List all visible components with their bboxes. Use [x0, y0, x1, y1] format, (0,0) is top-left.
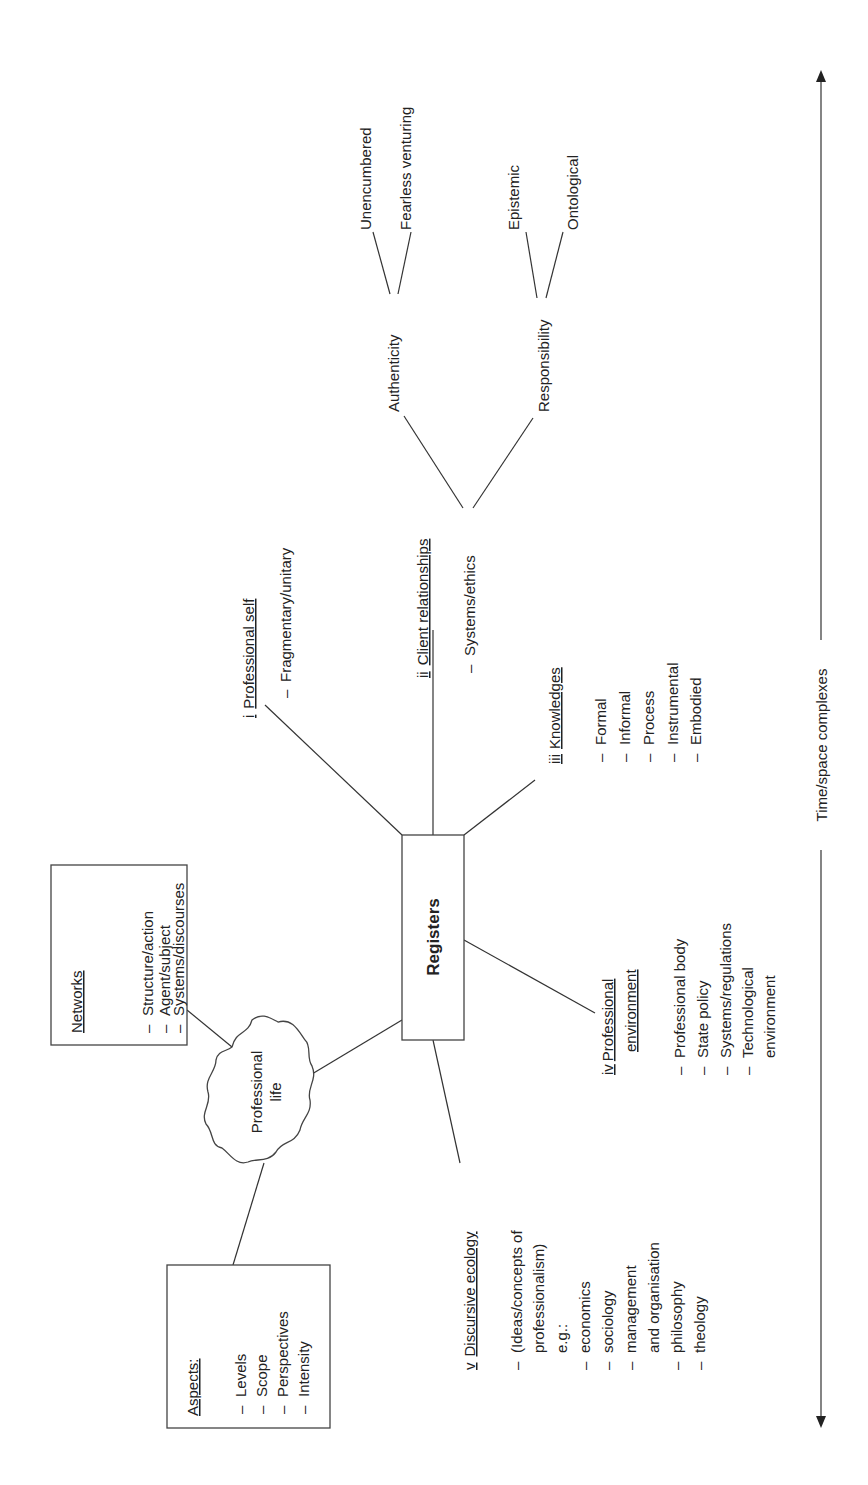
register-discursive-ecology: vDiscursive ecology – (Ideas/concepts of…: [461, 1230, 708, 1370]
svg-text:–: –: [576, 1361, 593, 1370]
register-professional-environment: ivProfessional environment – Professiona…: [599, 923, 778, 1075]
register-item: State policy: [694, 980, 711, 1058]
svg-text:–: –: [139, 1024, 156, 1033]
register-item: (Ideas/concepts of: [508, 1230, 525, 1353]
register-item: Systems/regulations: [717, 923, 734, 1058]
svg-text:–: –: [295, 1405, 312, 1414]
register-item: Professional body: [671, 938, 688, 1058]
time-space-axis: Time/space complexes: [813, 70, 830, 1428]
networks-box: Networks – Structure/action – Agent/subj…: [51, 865, 187, 1045]
svg-text:–: –: [671, 1066, 688, 1075]
register-item: Formal: [592, 698, 609, 745]
aspects-box: Aspects: – Levels – Scope – Perspectives…: [167, 1265, 330, 1428]
register-item: and organisation: [645, 1242, 662, 1353]
register-item: philosophy: [668, 1281, 685, 1353]
leaf-unencumbered: Unencumbered: [357, 127, 374, 230]
register-client-relationships: iiClient relationships – Systems/ethics …: [357, 107, 581, 678]
svg-text:–: –: [694, 1066, 711, 1075]
svg-text:–: –: [622, 1361, 639, 1370]
aspects-item: Intensity: [295, 1341, 312, 1397]
register-item: economics: [576, 1281, 593, 1353]
register-item: Process: [640, 691, 657, 745]
register-title: iiiKnowledges: [546, 667, 563, 764]
arrow-up-icon: [816, 70, 826, 82]
aspects-item: Scope: [253, 1354, 270, 1397]
register-item: Technological: [739, 967, 756, 1058]
axis-label: Time/space complexes: [813, 669, 830, 822]
svg-text:–: –: [616, 753, 633, 762]
branch-responsibility: Responsibility: [535, 319, 552, 412]
svg-text:–: –: [274, 1405, 291, 1414]
register-title: vDiscursive ecology: [461, 1231, 478, 1370]
register-item: Embodied: [687, 677, 704, 745]
svg-text:–: –: [232, 1405, 249, 1414]
svg-text:–: –: [170, 1024, 187, 1033]
networks-item: Systems/discourses: [170, 883, 187, 1016]
svg-text:–: –: [277, 689, 294, 698]
leaf-ontological: Ontological: [564, 155, 581, 230]
svg-text:–: –: [640, 753, 657, 762]
concept-diagram: Time/space complexes Registers: [0, 0, 868, 1485]
register-item: Instrumental: [664, 662, 681, 745]
networks-item: Structure/action: [139, 911, 156, 1016]
leaf-epistemic: Epistemic: [505, 164, 522, 230]
register-title: iProfessional self: [240, 598, 257, 718]
cloud-label-line2: life: [267, 1082, 284, 1101]
register-item: Systems/ethics: [461, 555, 478, 656]
leaf-fearless-venturing: Fearless venturing: [397, 107, 414, 230]
register-item: Informal: [616, 691, 633, 745]
svg-text:–: –: [664, 753, 681, 762]
networks-title: Networks: [68, 970, 85, 1033]
register-item: Fragmentary/unitary: [277, 547, 294, 682]
registers-node: Registers: [402, 835, 464, 1040]
register-professional-self: iProfessional self – Fragmentary/unitary: [240, 547, 294, 718]
svg-text:–: –: [592, 753, 609, 762]
svg-text:–: –: [687, 753, 704, 762]
register-item: environment: [761, 975, 778, 1058]
svg-text:–: –: [461, 664, 478, 673]
aspects-item: Perspectives: [274, 1311, 291, 1397]
register-item: e.g.:: [553, 1324, 570, 1353]
cloud-label-line1: Professional: [248, 1051, 265, 1134]
svg-text:–: –: [717, 1066, 734, 1075]
register-item: sociology: [599, 1290, 616, 1353]
aspects-title: Aspects:: [184, 1358, 201, 1416]
svg-text:–: –: [508, 1361, 525, 1370]
svg-text:–: –: [599, 1361, 616, 1370]
register-title: iiClient relationships: [414, 539, 431, 678]
branch-authenticity: Authenticity: [385, 334, 402, 412]
register-knowledges: iiiKnowledges – Formal – Informal – Proc…: [546, 662, 704, 764]
registers-label: Registers: [424, 898, 443, 975]
register-item: management: [622, 1265, 639, 1353]
svg-text:–: –: [691, 1361, 708, 1370]
svg-text:–: –: [668, 1361, 685, 1370]
register-item: professionalism): [530, 1244, 547, 1353]
register-item: theology: [691, 1296, 708, 1353]
aspects-item: Levels: [232, 1354, 249, 1397]
register-title: ivProfessional: [599, 979, 616, 1075]
svg-text:–: –: [253, 1405, 270, 1414]
register-title-line2: environment: [622, 969, 639, 1052]
arrow-down-icon: [816, 1416, 826, 1428]
svg-text:–: –: [739, 1066, 756, 1075]
